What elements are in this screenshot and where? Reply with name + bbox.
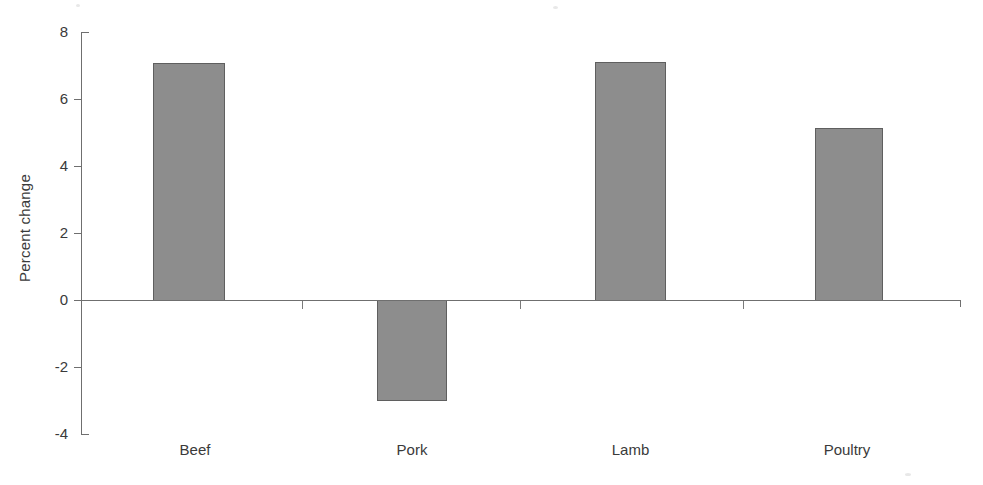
bar-chart-figure: Percent change 8 6 4 2 0 -2 -4 Beef Pork… bbox=[0, 0, 983, 485]
y-axis-label-0-wrap: 0 bbox=[8, 292, 68, 308]
x-axis-label-beef: Beef bbox=[159, 441, 231, 459]
x-axis-label-lamb: Lamb bbox=[595, 441, 666, 459]
scan-speckle bbox=[76, 4, 80, 7]
bar-beef bbox=[153, 63, 225, 301]
y-axis-label-6: 6 bbox=[8, 91, 68, 106]
y-axis-tick-neg2 bbox=[74, 367, 82, 368]
y-axis-tick-4 bbox=[74, 166, 82, 167]
y-axis-label-0: 0 bbox=[8, 292, 68, 307]
y-axis-tick-8 bbox=[81, 32, 89, 33]
x-axis-tick-2 bbox=[520, 301, 521, 309]
x-axis-end-cap bbox=[960, 300, 961, 307]
x-axis-label-poultry: Poultry bbox=[812, 441, 882, 459]
zero-baseline bbox=[81, 300, 961, 301]
x-axis-tick-3 bbox=[743, 301, 744, 309]
y-axis-label-8-wrap: 8 bbox=[8, 24, 68, 40]
y-axis-label-neg4-wrap: -4 bbox=[8, 426, 68, 442]
y-axis-tick-6 bbox=[74, 99, 82, 100]
y-axis-label-2-wrap: 2 bbox=[8, 225, 68, 241]
y-axis-label-neg4: -4 bbox=[8, 426, 68, 441]
bar-pork bbox=[377, 300, 447, 401]
x-axis-label-pork: Pork bbox=[377, 441, 447, 459]
y-axis-label-4-wrap: 4 bbox=[8, 158, 68, 174]
y-axis-tick-neg4 bbox=[81, 434, 89, 435]
y-axis-label-4: 4 bbox=[8, 158, 68, 173]
y-axis-label-8: 8 bbox=[8, 24, 68, 39]
scan-speckle bbox=[905, 473, 911, 476]
bar-poultry bbox=[815, 128, 883, 301]
y-axis-label-2: 2 bbox=[8, 225, 68, 240]
y-axis-tick-2 bbox=[74, 233, 82, 234]
scan-speckle bbox=[553, 6, 558, 9]
y-axis-label-6-wrap: 6 bbox=[8, 91, 68, 107]
bar-lamb bbox=[595, 62, 666, 301]
y-axis-label-neg2-wrap: -2 bbox=[8, 359, 68, 375]
y-axis-label-neg2: -2 bbox=[8, 359, 68, 374]
x-axis-tick-1 bbox=[302, 301, 303, 309]
